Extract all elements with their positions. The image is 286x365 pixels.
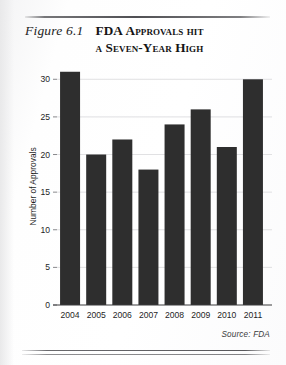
- chart-bars: [60, 72, 263, 305]
- svg-text:2008: 2008: [165, 310, 184, 320]
- footer-rule-upper: [22, 350, 270, 351]
- chart-gridlines: [53, 79, 272, 305]
- svg-text:15: 15: [40, 187, 50, 197]
- svg-text:10: 10: [40, 225, 50, 235]
- svg-text:2006: 2006: [113, 310, 132, 320]
- svg-text:2010: 2010: [217, 310, 236, 320]
- svg-text:2005: 2005: [87, 310, 106, 320]
- svg-text:Number of Approvals: Number of Approvals: [28, 147, 38, 225]
- svg-text:2007: 2007: [139, 310, 158, 320]
- svg-text:2004: 2004: [61, 310, 80, 320]
- svg-text:2009: 2009: [191, 310, 210, 320]
- svg-text:30: 30: [40, 74, 50, 84]
- svg-text:20: 20: [40, 150, 50, 160]
- chart-category-labels: 20042005200620072008200920102011: [61, 310, 263, 320]
- svg-text:25: 25: [40, 112, 50, 122]
- source-note: Source: FDA: [221, 330, 270, 339]
- svg-text:2011: 2011: [244, 310, 263, 320]
- bar-chart: 051015202530 200420052006200720082009201…: [0, 0, 286, 365]
- chart-yaxis-title: Number of Approvals: [28, 147, 38, 225]
- footer-rule-lower: [22, 354, 270, 355]
- svg-text:5: 5: [45, 262, 50, 272]
- chart-ytick-labels: 051015202530: [40, 74, 50, 310]
- svg-text:0: 0: [45, 300, 50, 310]
